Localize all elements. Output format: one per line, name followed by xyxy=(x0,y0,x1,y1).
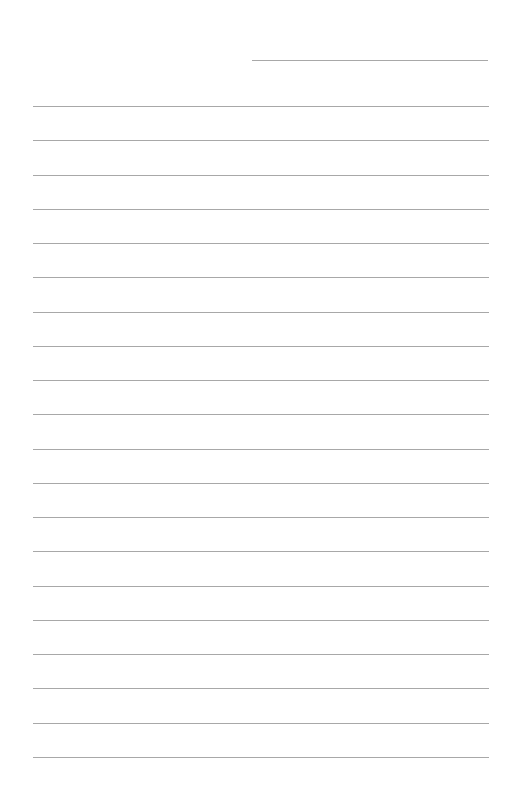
ruled-line xyxy=(33,346,489,347)
ruled-line xyxy=(33,483,489,484)
ruled-line xyxy=(33,620,489,621)
ruled-line xyxy=(33,106,489,107)
ruled-line xyxy=(33,312,489,313)
header-name-line xyxy=(252,60,488,61)
lined-paper-page xyxy=(0,0,514,807)
ruled-line xyxy=(33,688,489,689)
ruled-line xyxy=(33,277,489,278)
ruled-line xyxy=(33,243,489,244)
ruled-line xyxy=(33,414,489,415)
ruled-line xyxy=(33,757,489,758)
ruled-line xyxy=(33,551,489,552)
ruled-line xyxy=(33,449,489,450)
ruled-line xyxy=(33,175,489,176)
ruled-line xyxy=(33,723,489,724)
ruled-line xyxy=(33,654,489,655)
ruled-line xyxy=(33,380,489,381)
ruled-line xyxy=(33,586,489,587)
ruled-line xyxy=(33,209,489,210)
ruled-line xyxy=(33,517,489,518)
ruled-line xyxy=(33,140,489,141)
